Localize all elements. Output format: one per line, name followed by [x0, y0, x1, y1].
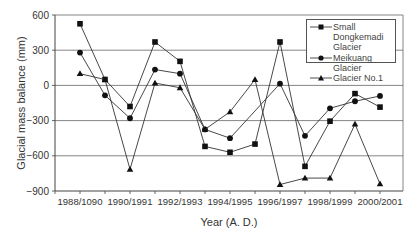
y-tick-label: 300 [32, 45, 49, 56]
x-tick-label: 1998/1999 [308, 196, 353, 207]
legend-item-small-dongkemadi: Small Dongkemadi Glacier [309, 22, 393, 52]
circle-marker-icon [309, 53, 333, 63]
data-point [277, 39, 283, 45]
square-marker-icon [309, 22, 333, 32]
data-point [302, 164, 308, 170]
y-tick-label: 600 [32, 10, 49, 21]
y-tick-label: 0 [43, 80, 49, 91]
x-tick-label: 1990/1991 [108, 196, 153, 207]
x-tick-label: 1996/1997 [258, 196, 303, 207]
x-tick-label: 2000/2001 [358, 196, 403, 207]
legend-label: Small Dongkemadi Glacier [333, 22, 393, 52]
data-point [302, 175, 309, 181]
data-point [227, 149, 233, 155]
x-tick-label: 1992/1993 [158, 196, 203, 207]
data-point [127, 115, 133, 121]
x-tick-label: 1994/1995 [208, 196, 253, 207]
y-tick-label: −600 [26, 150, 49, 161]
data-point [127, 104, 133, 110]
data-point [77, 21, 83, 27]
data-point [352, 121, 359, 127]
data-point [177, 71, 183, 77]
data-point [77, 70, 84, 76]
y-tick-label: −900 [26, 186, 49, 197]
data-point [77, 50, 83, 56]
data-point [127, 166, 134, 172]
data-point [277, 81, 283, 87]
y-tick-label: −300 [26, 115, 49, 126]
data-point [152, 67, 158, 73]
legend-item-meikuang: Meikuang Glacier [309, 53, 393, 73]
legend-label: Meikuang Glacier [333, 53, 393, 73]
legend-item-glacier-no1: Glacier No.1 [309, 73, 393, 83]
x-tick-label: 1988/1090 [58, 196, 103, 207]
data-point [152, 80, 159, 86]
triangle-marker-icon [309, 73, 333, 83]
data-point [177, 59, 183, 65]
data-point [252, 76, 259, 82]
data-point [377, 181, 384, 187]
data-point [352, 98, 358, 104]
x-axis-title: Year (A. D.) [200, 216, 257, 228]
y-axis-title: Glacial mass balance (mm) [15, 36, 27, 169]
data-point [352, 91, 358, 97]
data-point [252, 141, 258, 147]
data-point [377, 104, 383, 110]
data-point [202, 144, 208, 150]
data-point [327, 175, 334, 181]
chart-legend: Small Dongkemadi Glacier Meikuang Glacie… [306, 19, 396, 63]
data-point [327, 118, 333, 124]
data-point [227, 135, 233, 141]
data-point [102, 92, 108, 98]
data-point [377, 93, 383, 99]
legend-label: Glacier No.1 [333, 73, 383, 83]
data-point [327, 105, 333, 111]
data-point [152, 39, 158, 45]
data-point [302, 133, 308, 139]
series-triangle [77, 70, 384, 187]
